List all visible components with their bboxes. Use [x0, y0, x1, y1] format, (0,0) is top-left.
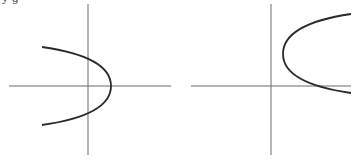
right-graph	[191, 4, 351, 155]
graphs-figure	[0, 0, 360, 162]
left-graph	[9, 4, 171, 155]
right-parabola-curve	[283, 14, 351, 93]
